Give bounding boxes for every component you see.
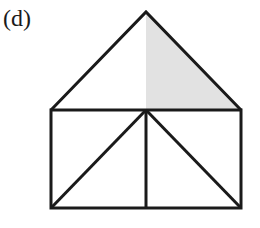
house-diagram bbox=[0, 0, 260, 228]
right-diagonal-line bbox=[146, 110, 241, 208]
left-diagonal-line bbox=[51, 110, 146, 208]
